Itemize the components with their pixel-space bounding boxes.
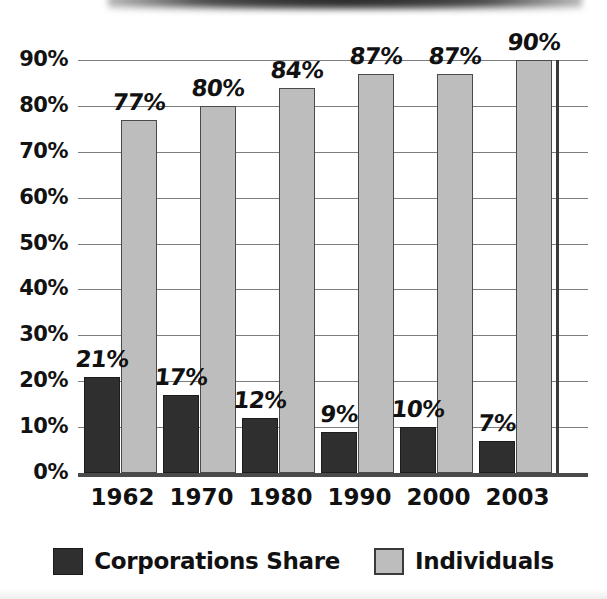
y-tick-0%: 0% <box>2 460 68 484</box>
bar-1962-individuals <box>121 120 157 473</box>
value-label-2003-individuals: 90% <box>498 29 571 55</box>
bar-2000-corporations <box>400 427 436 473</box>
value-label-1962-corporations: 21% <box>66 346 139 372</box>
bar-1970-individuals <box>200 106 236 473</box>
value-label-2000-corporations: 10% <box>382 396 455 422</box>
value-label-1970-individuals: 80% <box>182 75 255 101</box>
bar-chart: 0%10%20%30%40%50%60%70%80%90% 21%77%17%8… <box>0 0 607 599</box>
value-label-2003-corporations: 7% <box>461 410 534 436</box>
legend-label-individuals: Individuals <box>415 548 554 574</box>
bar-1990-corporations <box>321 432 357 473</box>
y-tick-20%: 20% <box>2 368 68 392</box>
value-label-1980-individuals: 84% <box>261 57 334 83</box>
dark-square-swatch-icon <box>53 548 83 575</box>
y-tick-70%: 70% <box>2 139 68 163</box>
bar-2003-corporations <box>479 441 515 473</box>
x-axis-baseline <box>78 473 588 477</box>
y-tick-80%: 80% <box>2 93 68 117</box>
chart-legend: Corporations Share Individuals <box>0 541 607 581</box>
y-tick-60%: 60% <box>2 185 68 209</box>
value-label-1962-individuals: 77% <box>103 89 176 115</box>
legend-label-corporations-share: Corporations Share <box>94 548 340 574</box>
y-tick-30%: 30% <box>2 322 68 346</box>
value-label-1970-corporations: 17% <box>145 364 218 390</box>
value-label-1990-corporations: 9% <box>303 401 376 427</box>
x-tick-2003: 2003 <box>470 484 566 510</box>
value-label-2000-individuals: 87% <box>419 43 492 69</box>
bar-1962-corporations <box>84 377 120 473</box>
bar-1980-corporations <box>242 418 278 473</box>
y-tick-40%: 40% <box>2 276 68 300</box>
y-tick-10%: 10% <box>2 414 68 438</box>
gray-square-swatch-icon <box>374 548 404 575</box>
value-label-1980-corporations: 12% <box>224 387 297 413</box>
value-label-1990-individuals: 87% <box>340 43 413 69</box>
bar-1970-corporations <box>163 395 199 473</box>
y-axis-right-line <box>556 60 559 476</box>
y-tick-50%: 50% <box>2 231 68 255</box>
y-tick-90%: 90% <box>2 47 68 71</box>
legend-item-individuals: Individuals <box>374 548 554 575</box>
legend-item-corporations-share: Corporations Share <box>53 548 340 575</box>
